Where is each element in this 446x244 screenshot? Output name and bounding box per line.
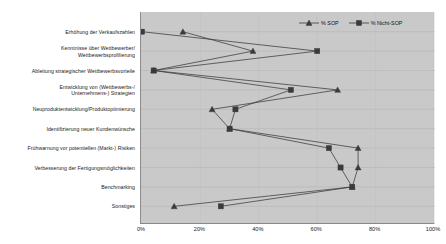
data-point-marker-square <box>233 107 238 112</box>
y-axis-label: Erhöhung der Verkaufszahlen <box>1 28 135 34</box>
y-axis-label: Identifizierung neuer Kundenwünsche <box>1 125 135 131</box>
y-axis-label: Verbesserung der Fertigungsmöglichkeiten <box>1 164 135 170</box>
legend-label: % SOP <box>321 20 339 26</box>
data-point-marker-triangle <box>180 29 186 34</box>
data-point-marker-square <box>315 49 320 54</box>
y-axis-label: Sonstiges <box>1 203 135 209</box>
plot-svg <box>141 12 435 224</box>
y-axis-label: Benchmarking <box>1 184 135 190</box>
data-point-marker-square <box>288 87 293 92</box>
data-point-marker-square <box>151 68 156 73</box>
data-point-marker-square <box>350 184 355 189</box>
x-axis-tick-label: 60% <box>311 226 322 232</box>
data-point-marker-square <box>326 146 331 151</box>
y-axis-category-labels: Erhöhung der VerkaufszahlenKenntnisse üb… <box>0 12 138 224</box>
series-line--sop <box>154 32 358 207</box>
data-point-marker-square <box>218 204 223 209</box>
y-axis-label: Frühwarnung vor potentiellen (Markt-) Ri… <box>1 145 135 151</box>
x-axis-tick-label: 80% <box>369 226 380 232</box>
legend-label: % Nicht-SOP <box>371 20 403 26</box>
legend-item[interactable]: % SOP <box>299 19 339 27</box>
data-point-marker-triangle <box>355 165 361 170</box>
x-axis-tick-label: 20% <box>194 226 205 232</box>
y-axis-label: Entwicklung von (Wettbewerbs-/ Unternehm… <box>1 83 135 96</box>
data-point-marker-square <box>227 126 232 131</box>
legend-marker-square-icon <box>349 19 369 27</box>
x-axis-tick-label: 100% <box>426 226 440 232</box>
y-axis-label: Kenntnisse über Wettbewerber/ Wettbewerb… <box>1 45 135 58</box>
data-point-marker-square <box>356 20 361 25</box>
x-axis-tick-label: 0% <box>137 226 145 232</box>
data-point-marker-square <box>141 29 145 34</box>
x-axis-tick-label: 40% <box>252 226 263 232</box>
data-point-marker-square <box>338 165 343 170</box>
legend-item[interactable]: % Nicht-SOP <box>349 19 403 27</box>
chart-container: Erhöhung der VerkaufszahlenKenntnisse üb… <box>0 0 446 244</box>
x-axis-tick-labels: 0%20%40%60%80%100% <box>140 226 434 240</box>
y-axis-label: Neuproduktentwicklung/Produktoptimierung <box>1 106 135 112</box>
y-axis-label: Ableitung strategischer Wettbewerbsvorte… <box>1 67 135 73</box>
plot-area <box>140 12 434 224</box>
series-line--nicht-sop <box>142 32 352 207</box>
chart-legend: % SOP% Nicht-SOP <box>296 16 405 30</box>
legend-marker-triangle-icon <box>299 19 319 27</box>
